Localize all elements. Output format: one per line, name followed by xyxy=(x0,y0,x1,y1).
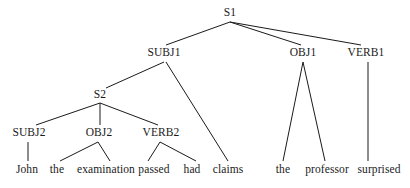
tree-edge xyxy=(230,22,361,45)
tree-node-verb1: VERB1 xyxy=(348,47,385,59)
syntax-tree-figure: S1SUBJ1OBJ1VERB1S2SUBJ2OBJ2VERB2 Johnthe… xyxy=(0,0,410,188)
tree-edge xyxy=(60,142,98,161)
tree-edge xyxy=(98,142,110,161)
tree-edge xyxy=(230,22,301,45)
tree-leaf-word: examination xyxy=(77,164,135,176)
tree-node-subj1: SUBJ1 xyxy=(147,47,180,59)
tree-edges xyxy=(28,22,368,161)
tree-edge xyxy=(283,62,303,161)
tree-edge xyxy=(36,103,100,125)
tree-node-s2: S2 xyxy=(94,89,106,101)
tree-leaf-word: the xyxy=(276,164,290,176)
tree-leaf-word: claims xyxy=(213,164,244,176)
tree-edge-layer xyxy=(0,0,410,188)
tree-leaf-word: John xyxy=(16,164,38,176)
tree-edge xyxy=(100,103,158,125)
tree-edge xyxy=(160,142,196,161)
tree-node-subj2: SUBJ2 xyxy=(12,127,45,139)
tree-node-s1: S1 xyxy=(224,7,236,19)
tree-leaf-word: the xyxy=(50,164,64,176)
tree-leaf-word: professor xyxy=(305,164,349,176)
tree-edge xyxy=(106,62,164,88)
tree-edge xyxy=(166,22,230,45)
tree-leaf-word: passed xyxy=(138,164,169,176)
tree-node-verb2: VERB2 xyxy=(143,127,180,139)
tree-leaf-word: had xyxy=(184,164,201,176)
tree-edge xyxy=(166,62,228,161)
tree-edge xyxy=(148,142,160,161)
tree-node-obj1: OBJ1 xyxy=(290,47,317,59)
tree-leaf-word: surprised xyxy=(357,164,400,176)
tree-node-obj2: OBJ2 xyxy=(86,127,113,139)
tree-edge xyxy=(303,62,325,161)
